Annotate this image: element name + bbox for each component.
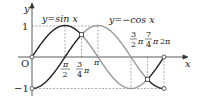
svg-text:3: 3 (77, 60, 82, 69)
svg-text:4: 4 (77, 70, 82, 79)
svg-text:3: 3 (131, 30, 136, 39)
origin-open-point (30, 55, 34, 59)
svg-text:7: 7 (146, 30, 151, 39)
svg-text:π: π (137, 37, 144, 46)
sin-curve-segment (32, 26, 82, 58)
y-tick-1: 1 (22, 21, 28, 32)
tick-label-pi-half: π 2 (61, 60, 70, 79)
origin-label: O (21, 58, 29, 69)
svg-text:π: π (152, 37, 159, 46)
svg-text:π: π (62, 60, 69, 69)
negcos-curve-segment (148, 79, 165, 88)
x-axis-label: x (185, 58, 191, 69)
tick-label-pi: π (93, 58, 100, 67)
y-axis-arrow-icon (30, 3, 34, 8)
tick-label-two-pi: 2π (160, 37, 170, 46)
negcos-curve-segment (32, 34, 82, 88)
svg-text:π: π (83, 66, 90, 75)
tick-label-seven-quarter-pi: 7 4 π (145, 30, 159, 49)
tick-label-three-half-pi: 3 2 π (130, 30, 144, 49)
negcos-curve-label: y=−cos x (108, 14, 155, 25)
end-open-point-bottom (162, 87, 166, 91)
intersection-marker-1 (80, 33, 84, 37)
tick-label-three-quarter-pi: 3 4 π (76, 60, 90, 79)
y-tick-neg1: −1 (14, 83, 29, 94)
negcos-curve-segment (82, 26, 147, 80)
svg-text:2: 2 (131, 40, 136, 49)
intersection-marker-2 (146, 77, 150, 81)
graph: y x O 1 −1 y=sin x y=−cos x π 2 3 4 π π … (0, 0, 197, 106)
y-axis-label: y (23, 3, 30, 14)
sin-curve-segment (148, 57, 165, 79)
end-open-point-top (162, 55, 166, 59)
svg-text:4: 4 (146, 40, 151, 49)
neg-one-open-point (30, 87, 34, 91)
sin-curve-label: y=sin x (41, 13, 78, 24)
svg-text:2: 2 (63, 70, 68, 79)
